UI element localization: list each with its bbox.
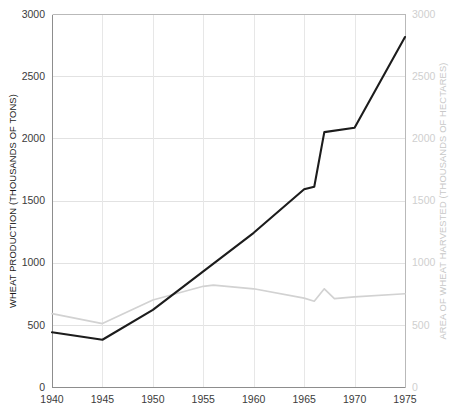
x-tick-label: 1940 <box>40 393 64 405</box>
y-tick-label-right: 1500 <box>412 194 436 206</box>
x-tick-label: 1975 <box>393 393 417 405</box>
y-tick-label-left: 2000 <box>22 132 46 144</box>
x-tick-label: 1960 <box>242 393 266 405</box>
y-tick-label-right: 2000 <box>412 132 436 144</box>
y-tick-label-right: 500 <box>412 319 430 331</box>
y-tick-label-left: 2500 <box>22 70 46 82</box>
chart-container: 050010001500200025003000 050010001500200… <box>0 0 459 417</box>
y-tick-label-left: 500 <box>27 319 45 331</box>
wheat-production-line-chart: 050010001500200025003000 050010001500200… <box>0 0 459 417</box>
y-tick-label-right: 0 <box>412 381 418 393</box>
y-tick-label-left: 3000 <box>22 8 46 20</box>
y-tick-label-left: 1000 <box>22 256 46 268</box>
y-tick-label-left: 0 <box>39 381 45 393</box>
y-axis-label-right: AREA OF WHEAT HARVESTED (THOUSANDS OF HE… <box>438 62 448 339</box>
y-tick-label-right: 2500 <box>412 70 436 82</box>
x-tick-label: 1955 <box>192 393 216 405</box>
x-tick-label: 1965 <box>292 393 316 405</box>
x-tick-label: 1970 <box>343 393 367 405</box>
x-tick-label: 1950 <box>141 393 165 405</box>
x-tick-label: 1945 <box>91 393 115 405</box>
y-tick-label-right: 1000 <box>412 256 436 268</box>
y-axis-label-left: WHEAT PRODUCTION (THOUSANDS OF TONS) <box>8 94 18 308</box>
y-tick-label-right: 3000 <box>412 8 436 20</box>
y-tick-label-left: 1500 <box>22 194 46 206</box>
